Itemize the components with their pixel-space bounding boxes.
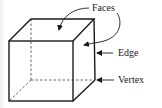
faces-arrow-side-icon [84, 13, 120, 45]
edge-label: Edge [118, 48, 139, 58]
front-face [9, 41, 73, 101]
hidden-edge-bottom-left-depth [9, 80, 31, 101]
edge-bottom-right-depth [73, 80, 95, 101]
top-face-edges [9, 19, 94, 41]
vertex-label: Vertex [118, 75, 144, 85]
visible-edges [9, 19, 95, 101]
faces-label: Faces [92, 3, 115, 13]
edge-back-right-vertical [94, 19, 95, 80]
